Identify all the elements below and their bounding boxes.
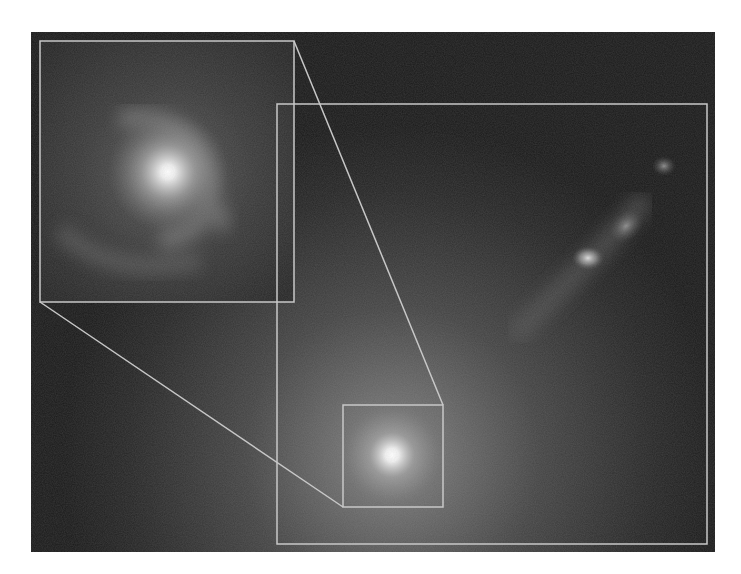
inset-zoom — [40, 41, 294, 302]
astronomy-image — [0, 0, 741, 574]
